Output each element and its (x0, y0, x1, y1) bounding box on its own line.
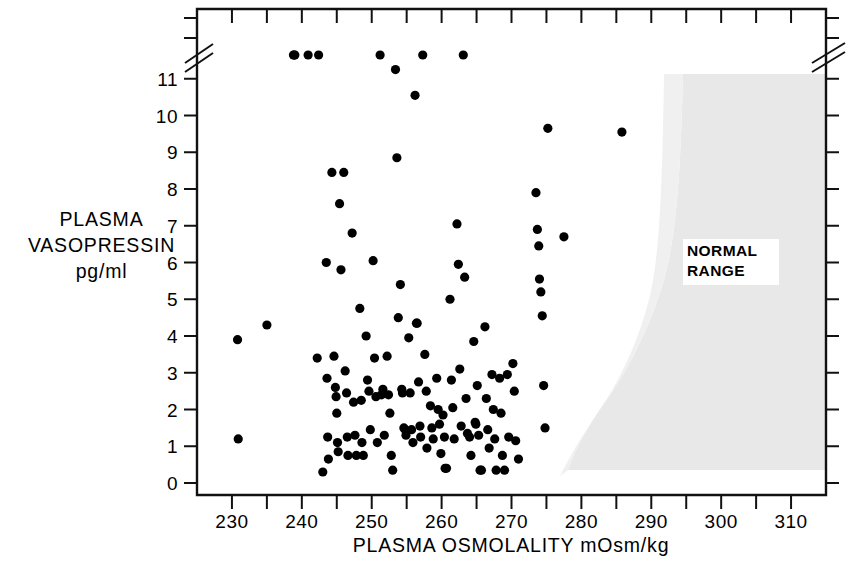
data-point (445, 295, 454, 304)
data-point (420, 350, 429, 359)
data-point (480, 322, 489, 331)
data-point (323, 432, 332, 441)
data-point (559, 232, 568, 241)
data-point (262, 320, 271, 329)
data-point (363, 376, 372, 385)
data-point (432, 374, 441, 383)
y-tick-label: 10 (156, 106, 178, 127)
data-point (391, 65, 400, 74)
y-axis-title-line1: PLASMA (14, 206, 189, 232)
x-tick-label: 230 (215, 511, 248, 532)
data-point (448, 403, 457, 412)
data-point (440, 432, 449, 441)
data-point (341, 366, 350, 375)
data-point (387, 451, 396, 460)
data-point (418, 50, 427, 59)
data-point (334, 447, 343, 456)
data-point (473, 381, 482, 390)
data-point (503, 370, 512, 379)
x-tick-label: 240 (285, 511, 318, 532)
data-point (536, 287, 545, 296)
data-point (474, 431, 483, 440)
x-tick-label: 300 (705, 511, 738, 532)
data-point (322, 374, 331, 383)
data-point (313, 353, 322, 362)
data-point (438, 410, 447, 419)
data-point (407, 425, 416, 434)
y-tick-label: 1 (167, 436, 178, 457)
data-point (490, 434, 499, 443)
data-point (514, 455, 523, 464)
data-point (457, 421, 466, 430)
data-point (233, 335, 242, 344)
data-point (370, 353, 379, 362)
normal-range-annotation: NORMAL RANGE (683, 239, 779, 285)
data-point (416, 432, 425, 441)
normal-range-label-line1: NORMAL (687, 242, 757, 259)
data-point (447, 376, 456, 385)
data-point (408, 438, 417, 447)
data-point (369, 256, 378, 265)
data-point (460, 273, 469, 282)
data-point (459, 50, 468, 59)
y-tick-label: 11 (157, 69, 178, 90)
data-point (415, 421, 424, 430)
data-point (380, 431, 389, 440)
data-point (452, 219, 461, 228)
data-point (482, 394, 491, 403)
data-point (355, 304, 364, 313)
data-point (454, 260, 463, 269)
y-tick-label: 9 (167, 142, 178, 163)
data-point (331, 392, 340, 401)
y-axis-title: PLASMA VASOPRESSIN pg/ml (14, 206, 189, 284)
data-point (376, 50, 385, 59)
data-point (414, 377, 423, 386)
x-axis-tick-labels: 230240250260270280290300310 (215, 511, 807, 532)
data-point (333, 438, 342, 447)
normal-range-label-line2: RANGE (687, 262, 745, 279)
figure-container: NORMAL RANGE 230240250260270280290300310… (0, 0, 851, 563)
data-point (413, 319, 422, 328)
data-point (357, 396, 366, 405)
data-point (394, 313, 403, 322)
data-point (392, 153, 401, 162)
data-point (422, 387, 431, 396)
data-point (531, 188, 540, 197)
y-axis-title-line3: pg/ml (14, 258, 189, 284)
y-tick-label: 3 (167, 363, 178, 384)
data-point (327, 168, 336, 177)
data-point (357, 438, 366, 447)
x-tick-label: 280 (565, 511, 598, 532)
data-point (336, 265, 345, 274)
y-axis-title-line2: VASOPRESSIN (14, 232, 189, 258)
y-tick-label: 2 (167, 400, 178, 421)
x-tick-label: 250 (355, 511, 388, 532)
data-point (511, 436, 520, 445)
data-point (496, 409, 505, 418)
data-point (455, 364, 464, 373)
data-point (329, 352, 338, 361)
data-point (349, 398, 358, 407)
data-point (343, 432, 352, 441)
data-point (539, 381, 548, 390)
data-point (442, 464, 451, 473)
data-point (396, 280, 405, 289)
data-point (322, 258, 331, 267)
data-point (324, 455, 333, 464)
y-tick-label: 8 (167, 179, 178, 200)
data-point (510, 387, 519, 396)
data-point (331, 383, 340, 392)
data-point (332, 409, 341, 418)
data-point (461, 394, 470, 403)
data-point (290, 50, 299, 59)
data-point (471, 420, 480, 429)
data-point (362, 331, 371, 340)
y-tick-label: 4 (167, 326, 178, 347)
data-point (436, 449, 445, 458)
data-point (318, 467, 327, 476)
data-point (384, 390, 393, 399)
data-point (339, 168, 348, 177)
data-point (483, 425, 492, 434)
data-point (540, 423, 549, 432)
data-point (304, 50, 313, 59)
